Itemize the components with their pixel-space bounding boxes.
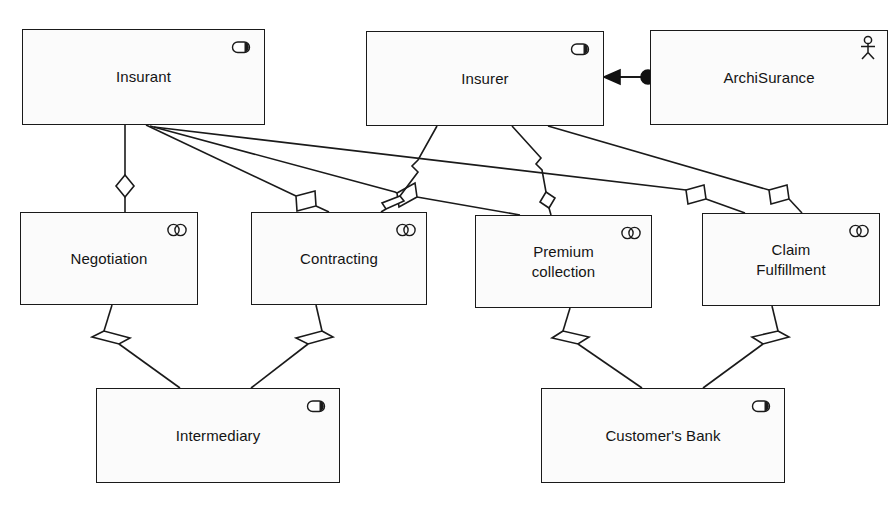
node-label: Negotiation xyxy=(65,249,154,269)
node-premium-collection[interactable]: Premium collection xyxy=(475,215,652,308)
edge-claim-fulfillment-to-customers-bank xyxy=(703,306,789,388)
node-label: Premium collection xyxy=(526,242,602,282)
node-label: ArchiSurance xyxy=(717,68,820,88)
node-contracting[interactable]: Contracting xyxy=(251,212,427,305)
node-insurant[interactable]: Insurant xyxy=(22,29,265,125)
business-role-icon xyxy=(231,36,257,58)
edge-insurer-to-claim-fulfillment xyxy=(548,126,802,213)
business-role-icon xyxy=(751,395,777,417)
business-role-icon xyxy=(306,395,332,417)
node-label: Intermediary xyxy=(170,426,267,446)
edge-insurant-to-premium-collection xyxy=(150,126,520,215)
edge-archisurance-to-insurer xyxy=(604,70,655,84)
edge-negotiation-to-intermediary xyxy=(92,305,180,388)
node-label: Insurer xyxy=(455,69,514,89)
diagram-canvas: Insurant Insurer ArchiSurance xyxy=(0,0,894,505)
edge-insurant-to-contracting xyxy=(146,125,329,212)
business-collaboration-icon xyxy=(618,222,644,244)
business-actor-icon xyxy=(858,35,878,61)
node-label: Claim Fulfillment xyxy=(750,240,831,280)
node-insurer[interactable]: Insurer xyxy=(366,31,604,126)
business-collaboration-icon xyxy=(393,219,419,241)
node-customers-bank[interactable]: Customer's Bank xyxy=(541,388,785,483)
edge-insurant-to-negotiation xyxy=(116,125,134,212)
node-label: Contracting xyxy=(294,249,384,269)
business-role-icon xyxy=(570,38,596,60)
edge-contracting-to-intermediary xyxy=(251,305,333,388)
node-intermediary[interactable]: Intermediary xyxy=(96,388,340,483)
business-collaboration-icon xyxy=(164,219,190,241)
node-archisurance[interactable]: ArchiSurance xyxy=(650,30,888,125)
node-label: Customer's Bank xyxy=(599,426,726,446)
business-collaboration-icon xyxy=(846,220,872,242)
node-negotiation[interactable]: Negotiation xyxy=(20,212,198,305)
node-label: Insurant xyxy=(110,67,177,87)
edge-premium-collection-to-customers-bank xyxy=(552,308,642,388)
node-claim-fulfillment[interactable]: Claim Fulfillment xyxy=(702,213,880,306)
